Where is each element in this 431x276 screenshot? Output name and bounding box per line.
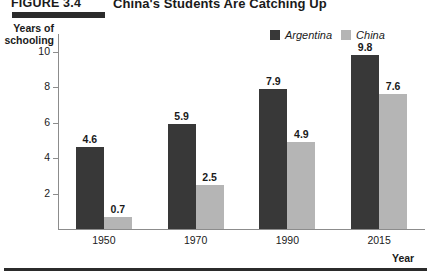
bar-group-2015: 9.87.62015 <box>333 34 425 229</box>
bar-rect[interactable] <box>104 217 132 229</box>
y-axis-title-line1: Years of <box>0 22 54 34</box>
bar-value-label: 9.8 <box>351 41 379 53</box>
bar-value-label: 4.9 <box>287 128 315 140</box>
bar-group-1970: 5.92.51970 <box>150 34 242 229</box>
bar-rect[interactable] <box>76 147 104 229</box>
bar-rect[interactable] <box>196 185 224 229</box>
x-tick-label-1950: 1950 <box>58 234 150 246</box>
y-tick-label: 10 <box>38 45 50 57</box>
bar-rect[interactable] <box>259 89 287 229</box>
y-tick-label: 8 <box>44 80 50 92</box>
plot-area: 246810 4.60.719505.92.519707.94.919909.8… <box>58 34 425 230</box>
bar-rect[interactable] <box>287 142 315 229</box>
bar-group-1990: 7.94.91990 <box>242 34 334 229</box>
bar-china-2015[interactable]: 7.6 <box>379 34 407 229</box>
x-axis-title: Year <box>392 252 414 264</box>
bar-groups: 4.60.719505.92.519707.94.919909.87.62015 <box>58 34 425 229</box>
bar-argentina-1970[interactable]: 5.9 <box>168 34 196 229</box>
bar-value-label: 4.6 <box>76 133 104 145</box>
bar-rect[interactable] <box>379 94 407 229</box>
bar-china-1970[interactable]: 2.5 <box>196 34 224 229</box>
y-tick-label: 6 <box>44 116 50 128</box>
bar-china-1990[interactable]: 4.9 <box>287 34 315 229</box>
y-tick-label: 2 <box>44 187 50 199</box>
figure-bottom-rule <box>4 268 427 271</box>
bar-argentina-1950[interactable]: 4.6 <box>76 34 104 229</box>
bar-rect[interactable] <box>168 124 196 229</box>
bar-china-1950[interactable]: 0.7 <box>104 34 132 229</box>
x-tick-label-1990: 1990 <box>242 234 334 246</box>
bar-group-1950: 4.60.71950 <box>58 34 150 229</box>
bar-argentina-2015[interactable]: 9.8 <box>351 34 379 229</box>
bar-value-label: 5.9 <box>168 110 196 122</box>
bar-pair: 7.94.9 <box>242 34 334 229</box>
bar-pair: 9.87.6 <box>333 34 425 229</box>
bar-value-label: 2.5 <box>196 171 224 183</box>
bar-pair: 4.60.7 <box>58 34 150 229</box>
x-axis-line <box>58 229 425 230</box>
bar-pair: 5.92.5 <box>150 34 242 229</box>
figure-number-rule <box>12 12 105 18</box>
bar-value-label: 0.7 <box>104 203 132 215</box>
bar-rect[interactable] <box>351 55 379 229</box>
figure-number: FIGURE 3.4 <box>11 0 81 10</box>
bar-value-label: 7.6 <box>379 80 407 92</box>
x-tick-label-1970: 1970 <box>150 234 242 246</box>
figure-title: China's Students Are Catching Up <box>113 0 327 11</box>
bar-argentina-1990[interactable]: 7.9 <box>259 34 287 229</box>
x-tick-label-2015: 2015 <box>333 234 425 246</box>
bar-value-label: 7.9 <box>259 75 287 87</box>
y-axis-title: Years of schooling <box>0 22 54 46</box>
y-tick-label: 4 <box>44 151 50 163</box>
